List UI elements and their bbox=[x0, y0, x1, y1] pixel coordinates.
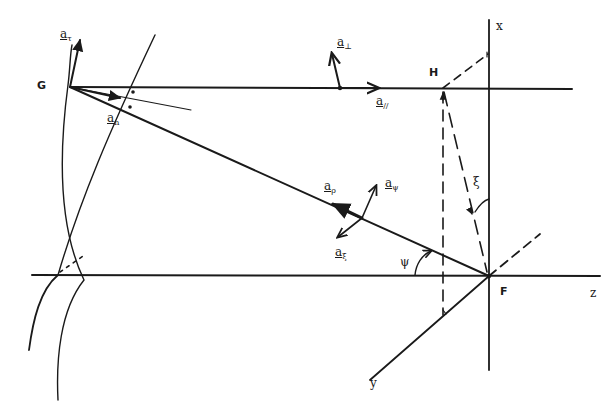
curve-lower bbox=[29, 275, 58, 350]
vector-label-a-perp: a⊥ bbox=[337, 36, 352, 51]
dashed-h-f bbox=[444, 92, 487, 272]
angle-arc-psi bbox=[415, 251, 431, 275]
curve-outer bbox=[58, 45, 84, 400]
vector-a-psi bbox=[362, 186, 376, 218]
dashed-extension-f bbox=[489, 234, 540, 276]
point-label-h: H bbox=[429, 67, 438, 78]
diagram-lines bbox=[0, 0, 611, 408]
vector-a-perp bbox=[332, 54, 340, 88]
angle-arc-xi bbox=[475, 199, 489, 212]
y-axis bbox=[370, 276, 489, 380]
dashed-h-x bbox=[443, 54, 488, 88]
vector-label-a-parallel: a// bbox=[376, 95, 389, 110]
angle-dot-1 bbox=[131, 90, 135, 94]
angle-label-psi: ψ bbox=[400, 256, 409, 268]
axis-label-x: x bbox=[496, 20, 503, 32]
vector-label-a-tau: aτ bbox=[60, 28, 72, 43]
axis-label-z: z bbox=[590, 287, 596, 299]
diagram: G H F x y z aτ a⊥ a// an aρ aψ aξ ψ ξ bbox=[0, 0, 611, 408]
line-gf bbox=[70, 87, 489, 276]
point-dot bbox=[338, 86, 342, 90]
z-axis bbox=[32, 275, 600, 276]
axis-label-y: y bbox=[370, 377, 377, 389]
point-label-g: G bbox=[37, 80, 46, 91]
vector-a-xi bbox=[338, 218, 362, 237]
vector-label-a-n: an bbox=[107, 112, 119, 127]
line-gh bbox=[70, 87, 572, 89]
vector-label-a-psi: aψ bbox=[385, 177, 398, 192]
angle-dot-2 bbox=[128, 105, 132, 109]
point-label-f: F bbox=[500, 286, 508, 297]
vector-label-a-rho: aρ bbox=[324, 180, 336, 195]
vector-a-rho bbox=[333, 204, 362, 218]
vector-a-n bbox=[70, 87, 120, 98]
point-dot-f bbox=[487, 274, 491, 278]
vector-label-a-xi: aξ bbox=[335, 246, 347, 261]
angle-label-xi: ξ bbox=[473, 176, 480, 188]
